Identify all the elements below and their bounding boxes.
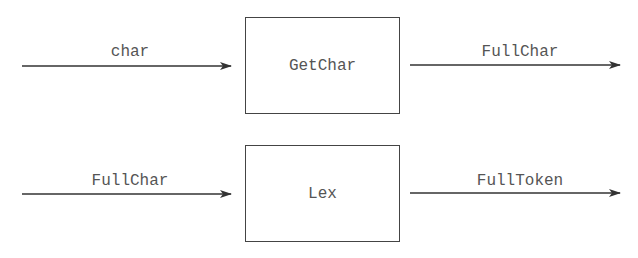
fullchar-output-label: FullChar (482, 44, 559, 60)
lexer-pipeline-diagram: char GetChar FullChar FullChar Lex FullT… (0, 0, 638, 258)
fulltoken-output-label: FullToken (477, 173, 563, 189)
getchar-box: GetChar (245, 17, 400, 114)
lex-box-label: Lex (308, 185, 337, 203)
getchar-box-label: GetChar (289, 57, 356, 75)
lex-box: Lex (245, 145, 400, 242)
fullchar-input-label: FullChar (92, 173, 169, 189)
char-input-label: char (111, 44, 149, 60)
